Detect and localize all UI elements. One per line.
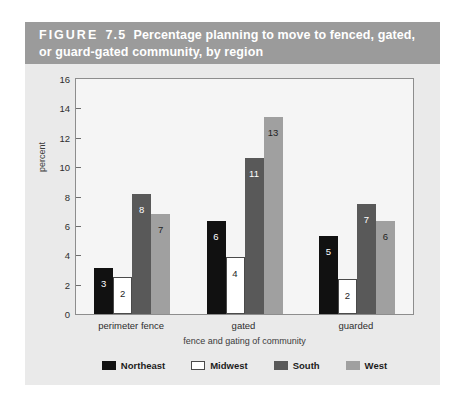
bar-midwest-gated[interactable]: 4 [226, 257, 245, 314]
y-tick-label: 12 [48, 132, 70, 143]
figure-card: FIGURE 7.5 Percentage planning to move t… [25, 22, 440, 385]
bar-value-label: 2 [339, 290, 356, 301]
y-tick-label: 10 [48, 162, 70, 173]
x-tick-label: gated [232, 320, 256, 331]
bar-value-label: 2 [114, 288, 131, 299]
chart-legend: NortheastMidwestSouthWest [75, 360, 414, 371]
bar-northeast-gated[interactable]: 6 [207, 221, 226, 314]
bar-value-label: 7 [151, 224, 170, 235]
bar-group: 5276 [319, 79, 395, 314]
legend-item-west[interactable]: West [346, 360, 388, 371]
legend-label: Midwest [210, 360, 247, 371]
y-tick-label: 0 [48, 309, 70, 320]
legend-swatch-icon [346, 361, 360, 370]
legend-swatch-icon [191, 361, 205, 370]
bar-value-label: 6 [376, 231, 395, 242]
bar-south-perimeter-fence[interactable]: 8 [132, 194, 151, 314]
legend-item-south[interactable]: South [274, 360, 320, 371]
y-tick-label: 4 [48, 250, 70, 261]
legend-swatch-icon [274, 361, 288, 370]
legend-swatch-icon [102, 361, 116, 370]
bar-south-gated[interactable]: 11 [245, 158, 264, 314]
y-tick-label: 2 [48, 279, 70, 290]
bar-group: 641113 [207, 79, 283, 314]
bar-midwest-guarded[interactable]: 2 [338, 279, 357, 314]
y-tick-label: 8 [48, 191, 70, 202]
bar-west-guarded[interactable]: 6 [376, 221, 395, 314]
bar-value-label: 3 [94, 278, 113, 289]
chart-container: percent 0246810121416 32876411135276 per… [25, 64, 440, 385]
legend-label: West [365, 360, 388, 371]
bar-south-guarded[interactable]: 7 [357, 204, 376, 314]
legend-item-northeast[interactable]: Northeast [102, 360, 165, 371]
y-tick-label: 14 [48, 103, 70, 114]
figure-label: FIGURE [39, 28, 98, 42]
bar-west-gated[interactable]: 13 [264, 117, 283, 314]
bar-value-label: 8 [132, 204, 151, 215]
x-axis-title: fence and gating of community [75, 336, 414, 346]
figure-title: FIGURE 7.5 Percentage planning to move t… [39, 27, 426, 61]
y-tick-label: 6 [48, 220, 70, 231]
bar-value-label: 13 [264, 127, 283, 138]
bar-northeast-perimeter-fence[interactable]: 3 [94, 268, 113, 314]
x-tick-label: perimeter fence [98, 320, 164, 331]
bar-northeast-guarded[interactable]: 5 [319, 236, 338, 314]
bar-value-label: 5 [319, 246, 338, 257]
figure-number: 7.5 [105, 28, 126, 42]
bar-value-label: 7 [357, 214, 376, 225]
bar-west-perimeter-fence[interactable]: 7 [151, 214, 170, 314]
bar-value-label: 11 [245, 168, 264, 179]
bar-value-label: 4 [227, 268, 244, 279]
x-tick-label: guarded [338, 320, 373, 331]
y-axis-title: percent [37, 112, 47, 202]
bar-value-label: 6 [207, 231, 226, 242]
bar-midwest-perimeter-fence[interactable]: 2 [113, 277, 132, 314]
bars-layer: 32876411135276 [76, 79, 413, 314]
legend-item-midwest[interactable]: Midwest [191, 360, 247, 371]
bar-group: 3287 [94, 79, 170, 314]
legend-label: Northeast [121, 360, 165, 371]
legend-label: South [293, 360, 320, 371]
y-tick-label: 16 [48, 74, 70, 85]
figure-title-bar: FIGURE 7.5 Percentage planning to move t… [25, 22, 440, 64]
plot-area: 0246810121416 32876411135276 [75, 78, 414, 315]
